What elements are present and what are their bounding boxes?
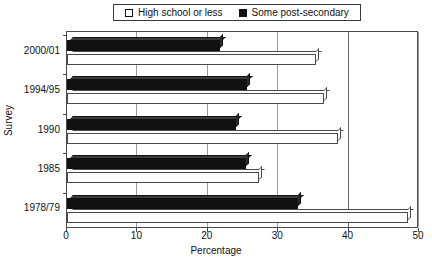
x-axis-label-10: 10: [131, 231, 142, 241]
bar-side-face: [316, 48, 319, 62]
bar-2000-01-dark: [67, 40, 220, 51]
bar-front-face: [67, 172, 259, 183]
bar-1978-79-light: [67, 212, 408, 223]
bar-side-face: [338, 127, 341, 141]
legend-swatch-filled-square-icon: [239, 9, 247, 17]
bar-front-face: [67, 133, 338, 144]
x-axis-tick-labels: 01020304050: [0, 231, 432, 245]
y-axis-title: Survey: [3, 91, 14, 151]
bar-side-face: [220, 34, 223, 48]
gridline-x-40: [348, 32, 349, 227]
bar-front-face: [67, 40, 220, 51]
bar-front-face: [67, 93, 324, 104]
bar-2000-01-light: [67, 54, 316, 65]
y-axis-label-1985: 1985: [38, 164, 60, 174]
y-axis-label-1978-79: 1978/79: [24, 203, 60, 213]
bar-1994-95-dark: [67, 79, 247, 90]
legend-label-high-school-or-less: High school or less: [138, 8, 222, 18]
bar-side-face: [298, 192, 301, 206]
bar-front-face: [67, 79, 247, 90]
gridline-x-50: [418, 32, 419, 227]
legend-label-some-post-secondary: Some post-secondary: [252, 8, 349, 18]
bar-front-face: [67, 212, 408, 223]
bar-front-face: [67, 119, 236, 130]
legend-swatch-hollow-square-icon: [125, 9, 133, 17]
x-axis-label-50: 50: [412, 231, 423, 241]
bar-side-face: [236, 113, 239, 127]
bar-1990-dark: [67, 119, 236, 130]
y-axis-label-2000-01: 2000/01: [24, 46, 60, 56]
chart-figure: High school or less Some post-secondary …: [0, 0, 432, 262]
y-axis-label-1994-95: 1994/95: [24, 85, 60, 95]
bar-front-face: [67, 158, 246, 169]
x-axis-label-30: 30: [272, 231, 283, 241]
bar-front-face: [67, 198, 298, 209]
plot-area: [66, 31, 418, 228]
x-axis-label-40: 40: [342, 231, 353, 241]
chart-legend: High school or less Some post-secondary: [113, 4, 361, 21]
x-axis-label-20: 20: [201, 231, 212, 241]
x-axis-label-0: 0: [63, 231, 69, 241]
legend-entry-some-post-secondary: Some post-secondary: [239, 8, 349, 18]
bar-side-face: [259, 166, 262, 180]
x-axis-title: Percentage: [0, 245, 432, 256]
bar-1994-95-light: [67, 93, 324, 104]
bar-side-face: [408, 206, 411, 220]
bar-1978-79-dark: [67, 198, 298, 209]
bar-1985-light: [67, 172, 259, 183]
bar-1990-light: [67, 133, 338, 144]
bar-side-face: [246, 152, 249, 166]
y-axis-label-1990: 1990: [38, 125, 60, 135]
bar-front-face: [67, 54, 316, 65]
bar-side-face: [247, 73, 250, 87]
bar-side-face: [324, 87, 327, 101]
bar-1985-dark: [67, 158, 246, 169]
legend-entry-high-school-or-less: High school or less: [125, 8, 222, 18]
